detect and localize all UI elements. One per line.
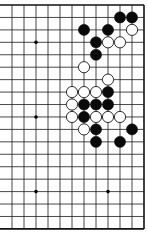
white-stone — [102, 37, 113, 48]
white-stone — [102, 111, 113, 122]
star-point — [34, 41, 38, 45]
black-stone — [90, 136, 101, 147]
white-stone — [66, 99, 77, 110]
black-stone — [102, 99, 113, 110]
star-point — [34, 115, 38, 119]
white-stone — [78, 86, 89, 97]
white-stone — [114, 37, 125, 48]
black-stone — [78, 99, 89, 110]
white-stone — [90, 86, 101, 97]
go-board — [0, 0, 148, 232]
white-stone — [90, 111, 101, 122]
white-stone — [66, 111, 77, 122]
white-stone — [66, 86, 77, 97]
black-stone — [78, 24, 89, 35]
black-stone — [102, 24, 113, 35]
black-stone — [90, 49, 101, 60]
black-stone — [114, 12, 125, 23]
black-stone — [102, 86, 113, 97]
white-stone — [78, 124, 89, 135]
white-stone — [126, 24, 137, 35]
black-stone — [90, 124, 101, 135]
white-stone — [78, 62, 89, 73]
black-stone — [90, 37, 101, 48]
black-stone — [78, 111, 89, 122]
black-stone — [114, 136, 125, 147]
black-stone — [126, 12, 137, 23]
black-stone — [90, 99, 101, 110]
black-stone — [126, 124, 137, 135]
star-point — [34, 190, 38, 194]
white-stone — [114, 111, 125, 122]
white-stone — [102, 74, 113, 85]
star-point — [106, 190, 110, 194]
